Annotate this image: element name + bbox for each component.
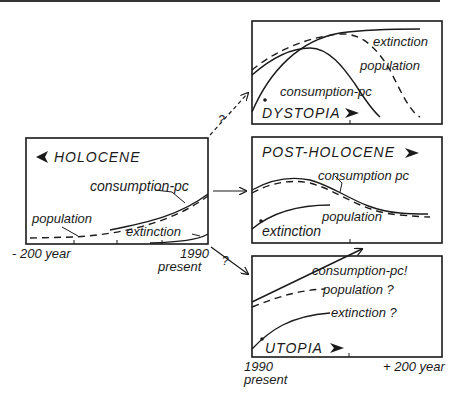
holocene-extinction-label: extinction xyxy=(126,224,181,239)
utopia-population-curve xyxy=(252,289,325,307)
post-holocene-title: POST-HOLOCENE xyxy=(262,144,395,160)
arrow-to-dystopia xyxy=(210,93,248,135)
utopia-title: UTOPIA xyxy=(265,340,323,356)
dystopia-question: ? xyxy=(218,113,225,127)
holocene-title: HOLOCENE xyxy=(54,149,141,165)
holocene-consumption-label: consumption-pc xyxy=(90,178,189,194)
scenario-diagram: HOLOCENE consumption-pc population extin… xyxy=(0,0,470,403)
right-arrow-icon xyxy=(405,148,419,158)
holocene-x-start: - 200 year xyxy=(12,246,71,261)
utopia-x-end: + 200 year xyxy=(383,359,445,374)
dystopia-population-label: population xyxy=(359,58,420,73)
dystopia-title: DYSTOPIA xyxy=(262,105,341,121)
utopia-question: ? xyxy=(222,254,229,268)
post-consumption-label: consumption pc xyxy=(318,168,410,183)
post-population-label: population xyxy=(321,209,382,224)
left-arrow-icon xyxy=(36,151,48,163)
arrow-to-utopia xyxy=(211,247,248,274)
post-extinction-label: extinction xyxy=(262,223,321,239)
post-holocene-panel: POST-HOLOCENE consumption pc population … xyxy=(252,137,442,243)
right-arrow-icon xyxy=(330,343,344,353)
holocene-population-label: population xyxy=(31,211,92,226)
dystopia-extinction-label: extinction xyxy=(373,34,428,49)
utopia-consumption-label: consumption-pc! xyxy=(312,263,408,278)
utopia-extinction-label: extinction ? xyxy=(331,305,398,320)
utopia-panel: consumption-pc! population ? extinction … xyxy=(243,249,445,387)
holocene-x-end-sub: present xyxy=(157,259,203,274)
holocene-panel: HOLOCENE consumption-pc population extin… xyxy=(12,138,210,274)
utopia-x-start-sub: present xyxy=(243,372,289,387)
utopia-population-label: population ? xyxy=(322,282,395,297)
transition-arrows: ? ? xyxy=(210,93,248,274)
dystopia-consumption-label: consumption-pc xyxy=(280,84,372,99)
dystopia-panel: extinction population consumption-pc DYS… xyxy=(252,21,442,124)
right-arrow-icon xyxy=(345,108,359,118)
